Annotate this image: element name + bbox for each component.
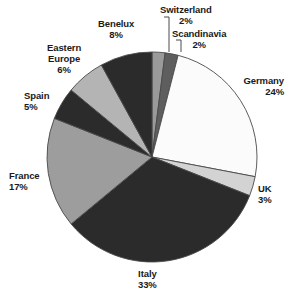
slice-label-benelux: Benelux 8% <box>98 18 134 40</box>
slice-label-france-name: France <box>9 170 40 181</box>
pie-chart-figure: Switzerland 2% Scandinavia 2% Germany 24… <box>0 0 286 297</box>
slice-label-uk-name: UK <box>258 183 272 194</box>
slice-label-italy-name: Italy <box>138 268 157 279</box>
slice-label-switzerland-value: 2% <box>160 15 212 26</box>
slice-label-germany: Germany 24% <box>244 75 285 97</box>
slice-label-switzerland-name: Switzerland <box>160 4 212 15</box>
slice-label-eastern-europe-value: 6% <box>47 64 81 75</box>
slice-label-germany-name: Germany <box>244 75 285 86</box>
slice-label-scandinavia-value: 2% <box>172 39 226 50</box>
slice-label-uk: UK 3% <box>258 183 272 205</box>
slice-label-eastern-europe: Eastern Europe 6% <box>47 42 81 76</box>
slice-label-italy: Italy 33% <box>138 268 157 290</box>
pie-chart-canvas <box>0 0 286 297</box>
slice-label-scandinavia: Scandinavia 2% <box>172 28 226 50</box>
slice-label-spain-value: 5% <box>24 101 49 112</box>
slice-label-benelux-value: 8% <box>98 29 134 40</box>
pie-slice-group <box>47 52 257 262</box>
slice-label-scandinavia-name: Scandinavia <box>172 28 226 39</box>
slice-label-france-value: 17% <box>9 181 40 192</box>
slice-label-benelux-name: Benelux <box>98 18 134 29</box>
slice-label-switzerland: Switzerland 2% <box>160 4 212 26</box>
slice-label-france: France 17% <box>9 170 40 192</box>
slice-label-spain: Spain 5% <box>24 90 49 112</box>
slice-label-spain-name: Spain <box>24 90 49 101</box>
slice-label-uk-value: 3% <box>258 194 272 205</box>
slice-label-germany-value: 24% <box>244 86 285 97</box>
slice-label-italy-value: 33% <box>138 279 157 290</box>
slice-label-eastern-europe-name1: Eastern <box>47 42 81 53</box>
slice-label-eastern-europe-name2: Europe <box>47 53 81 64</box>
